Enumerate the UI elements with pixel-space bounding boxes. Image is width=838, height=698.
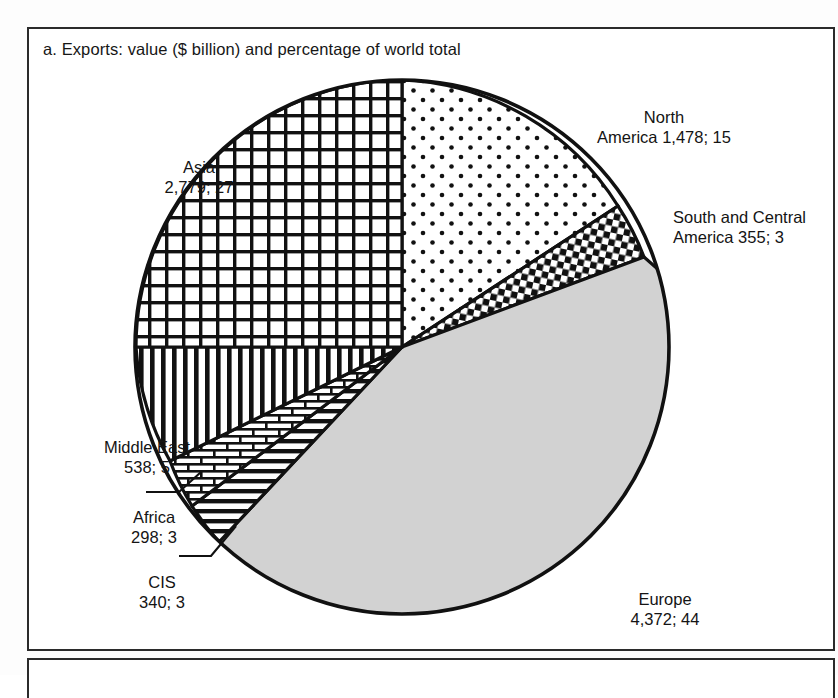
pie-label-cis-line2: 340; 3 <box>87 592 237 612</box>
pie-label-middle-east-line1: Middle East <box>57 437 237 457</box>
pie-label-africa: Africa 298; 3 <box>79 507 229 547</box>
chart-panel-a: a. Exports: value ($ billion) and percen… <box>27 27 835 651</box>
pie-label-cis: CIS 340; 3 <box>87 572 237 612</box>
pie-label-south-central-america-line1: South and Central <box>673 207 838 227</box>
pie-label-south-central-america: South and Central America 355; 3 <box>673 207 838 247</box>
pie-label-north-america-line1: North <box>549 107 779 127</box>
pie-slice-asia[interactable] <box>136 80 402 347</box>
pie-label-europe: Europe 4,372; 44 <box>575 589 755 629</box>
pie-label-asia-line2: 2,779; 27 <box>129 177 269 197</box>
page-title: a. Exports: value ($ billion) and percen… <box>43 40 461 59</box>
pie-label-africa-line2: 298; 3 <box>79 527 229 547</box>
pie-label-north-america: North America 1,478; 15 <box>549 107 779 147</box>
pie-label-europe-line2: 4,372; 44 <box>575 609 755 629</box>
pie-slice-south-central-america[interactable] <box>402 206 644 347</box>
pie-label-asia-line1: Asia <box>129 157 269 177</box>
pie-label-middle-east: Middle East 538; 5 <box>57 437 237 477</box>
pie-label-asia: Asia 2,779; 27 <box>129 157 269 197</box>
pie-label-south-central-america-line2: America 355; 3 <box>673 227 838 247</box>
pie-label-middle-east-line2: 538; 5 <box>57 457 237 477</box>
chart-panel-b <box>27 658 835 698</box>
pie-label-europe-line1: Europe <box>575 589 755 609</box>
pie-label-cis-line1: CIS <box>87 572 237 592</box>
pie-slice-africa[interactable] <box>170 347 402 506</box>
pie-label-africa-line1: Africa <box>79 507 229 527</box>
pie-label-north-america-line2: America 1,478; 15 <box>549 127 779 147</box>
